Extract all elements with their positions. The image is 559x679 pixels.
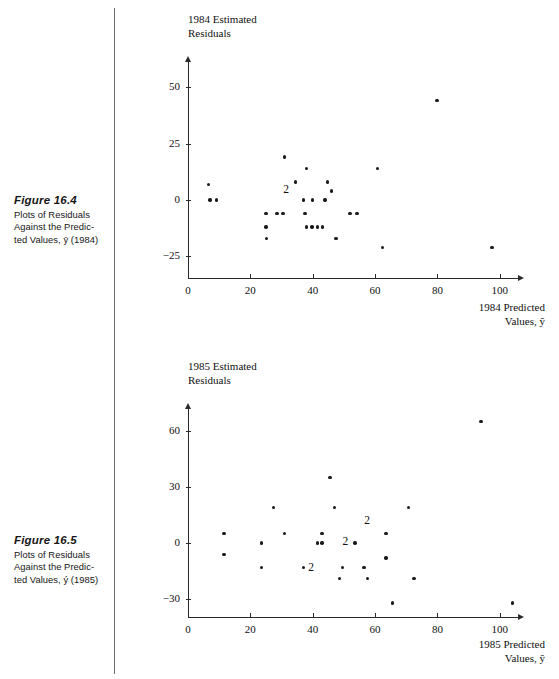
x-axis-title-line: Values, ŷ [479,314,545,328]
y-axis-title-line: Residuals [188,373,257,387]
x-axis-tick-label: 80 [417,623,457,635]
data-point [302,566,305,569]
y-axis-tick [186,87,191,88]
data-point [302,198,305,201]
x-axis-tick [250,274,251,279]
data-point [435,99,438,102]
y-axis-line-1984 [188,62,189,278]
x-axis-line-1984 [188,278,518,279]
data-point [320,532,323,535]
data-point [281,212,284,215]
data-point [316,225,319,228]
data-point [328,476,331,479]
data-point [407,506,410,509]
data-point [208,198,211,201]
x-axis-title-1985: 1985 Predicted Values, ŷ [479,637,545,665]
y-axis-tick-label: 50 [144,80,180,92]
data-point [384,532,387,535]
data-point [264,212,267,215]
x-axis-tick [188,613,189,618]
y-axis-tick [186,256,191,257]
data-point [222,553,225,556]
data-point [320,541,323,544]
x-axis-tick-label: 60 [355,623,395,635]
y-axis-title-1985: 1985 Estimated Residuals [188,359,257,387]
x-axis-title-line: Values, ŷ [479,651,545,665]
data-point [321,225,324,228]
data-point [338,577,341,580]
figure-page: Figure 16.4 Plots of Residuals Against t… [0,0,559,679]
x-axis-tick [188,274,189,279]
data-point [316,541,319,544]
x-axis-arrow-icon [518,275,524,281]
x-axis-tick-label: 20 [230,623,270,635]
x-axis-tick [437,274,438,279]
data-point [391,601,394,604]
y-axis-title-line: 1984 Estimated [188,12,257,26]
x-axis-tick-label: 100 [480,623,520,635]
y-axis-title-1984: 1984 Estimated Residuals [188,12,257,40]
data-point [265,237,268,240]
x-axis-tick-label: 0 [168,284,208,296]
x-axis-tick [500,613,501,618]
y-axis-tick [186,431,191,432]
data-point [511,601,514,604]
x-axis-tick-label: 0 [168,623,208,635]
data-point [311,198,314,201]
data-point [260,541,263,544]
x-axis-tick [375,613,376,618]
x-axis-tick [500,274,501,279]
x-axis-tick [313,274,314,279]
data-point [326,180,329,183]
data-point [275,212,278,215]
data-point [381,246,384,249]
overlap-count-label: 2 [308,561,314,573]
data-point [334,237,337,240]
y-axis-tick [186,144,191,145]
x-axis-tick-label: 100 [480,284,520,296]
y-axis-tick [186,200,191,201]
x-axis-tick-label: 80 [417,284,457,296]
x-axis-tick [313,613,314,618]
y-axis-line-1985 [188,409,189,617]
x-axis-title-line: 1985 Predicted [479,637,545,651]
data-point [341,566,344,569]
x-axis-title-line: 1984 Predicted [479,300,545,314]
x-axis-tick [250,613,251,618]
y-axis-tick-label: −30 [144,592,180,604]
scatter-plot-1985: 1985 Estimated Residuals 1985 Predicted … [0,340,559,679]
x-axis-tick [375,274,376,279]
data-point [283,155,286,158]
data-point [362,566,365,569]
data-point [207,183,210,186]
data-point [294,180,297,183]
data-point [384,556,387,559]
data-point [215,198,218,201]
x-axis-arrow-icon [518,614,524,620]
data-point [303,212,306,215]
x-axis-tick-label: 60 [355,284,395,296]
y-axis-tick [186,487,191,488]
y-axis-arrow-icon [185,403,191,409]
y-axis-tick-label: 0 [144,536,180,548]
y-axis-tick [186,599,191,600]
x-axis-tick [437,613,438,618]
x-axis-title-1984: 1984 Predicted Values, ŷ [479,300,545,328]
y-axis-tick-label: 30 [144,480,180,492]
y-axis-title-line: Residuals [188,26,257,40]
data-point [412,577,415,580]
y-axis-title-line: 1985 Estimated [188,359,257,373]
data-point [272,506,275,509]
data-point [283,532,286,535]
y-axis-tick-label: 0 [144,193,180,205]
x-axis-tick-label: 40 [293,284,333,296]
data-point [310,225,313,228]
data-point [366,577,369,580]
data-point [479,420,482,423]
y-axis-tick-label: 25 [144,137,180,149]
overlap-count-label: 2 [364,514,370,526]
data-point [264,225,267,228]
scatter-plot-1984: 1984 Estimated Residuals 1984 Predicted … [0,0,559,340]
data-point [333,506,336,509]
data-point [222,532,225,535]
